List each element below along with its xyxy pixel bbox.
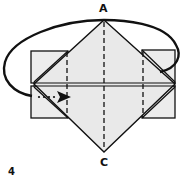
label-a: A — [99, 2, 108, 15]
fold-diagram-svg — [0, 0, 190, 176]
label-c: C — [100, 156, 108, 169]
step-number: 4 — [8, 166, 15, 176]
